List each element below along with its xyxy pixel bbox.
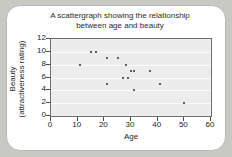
y-axis-tick-mark <box>46 102 50 103</box>
x-axis-label: Age <box>50 132 212 141</box>
y-axis-tick-label: 0 <box>32 111 46 119</box>
y-axis-tick-label: 8 <box>32 60 46 68</box>
y-axis-tick-mark <box>46 115 50 116</box>
x-axis-tick-mark <box>77 117 78 121</box>
x-axis-tick-label: 10 <box>67 121 87 129</box>
data-point <box>106 57 108 59</box>
gridline <box>51 52 211 53</box>
gridline <box>51 103 211 104</box>
x-axis-tick-mark <box>210 117 211 121</box>
chart-title-line-2: between age and beauty <box>30 21 210 31</box>
chart-title: A scattergraph showing the relationship … <box>30 11 210 31</box>
scatterplot-chart: A scattergraph showing the relationship … <box>0 0 232 157</box>
data-point <box>133 89 135 91</box>
x-axis-tick-label: 20 <box>93 121 113 129</box>
data-point <box>106 83 108 85</box>
data-point <box>183 102 185 104</box>
plot-area <box>50 38 212 117</box>
x-axis-tick-label: 40 <box>147 121 167 129</box>
data-point <box>125 64 127 66</box>
x-axis-tick-label: 60 <box>200 121 220 129</box>
x-axis-tick-mark <box>50 117 51 121</box>
data-point <box>159 83 161 85</box>
x-axis-tick-mark <box>183 117 184 121</box>
y-axis-tick-mark <box>46 89 50 90</box>
data-point <box>133 70 135 72</box>
y-axis-tick-mark <box>46 77 50 78</box>
data-point <box>122 77 124 79</box>
data-point <box>90 51 92 53</box>
y-axis-tick-mark <box>46 64 50 65</box>
data-point <box>149 70 151 72</box>
y-axis-tick-labels: 024681012 <box>30 38 46 117</box>
y-axis-tick-label: 10 <box>32 47 46 55</box>
y-axis-tick-mark <box>46 38 50 39</box>
x-axis-tick-label: 0 <box>40 121 60 129</box>
data-point <box>117 57 119 59</box>
x-axis-tick-mark <box>130 117 131 121</box>
y-axis-tick-label: 2 <box>32 98 46 106</box>
data-point <box>95 51 97 53</box>
x-axis-tick-mark <box>103 117 104 121</box>
data-point <box>79 64 81 66</box>
chart-title-line-1: A scattergraph showing the relationship <box>30 11 210 21</box>
y-axis-tick-label: 6 <box>32 73 46 81</box>
y-axis-label: Beauty (attractiveness rating) <box>8 34 26 124</box>
gridline <box>51 78 211 79</box>
y-axis-tick-label: 4 <box>32 85 46 93</box>
data-point <box>127 77 129 79</box>
y-axis-label-line-2: (attractiveness rating) <box>17 34 26 124</box>
gridline <box>51 90 211 91</box>
x-axis-tick-label: 50 <box>173 121 193 129</box>
x-axis-tick-labels: 0102030405060 <box>50 121 212 131</box>
y-axis-label-line-1: Beauty <box>8 34 17 124</box>
x-axis-tick-label: 30 <box>120 121 140 129</box>
y-axis-tick-mark <box>46 51 50 52</box>
y-axis-tick-label: 12 <box>32 34 46 42</box>
x-axis-tick-mark <box>157 117 158 121</box>
gridline <box>51 65 211 66</box>
